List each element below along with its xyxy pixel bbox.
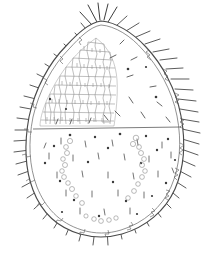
figure-root: [0, 0, 211, 256]
specimen-illustration: [0, 0, 211, 256]
